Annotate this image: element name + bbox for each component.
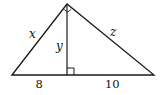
- label-8: 8: [36, 77, 43, 91]
- foot-right-angle-marker: [67, 68, 74, 75]
- triangle-diagram: x y z 8 10: [0, 0, 163, 95]
- label-10: 10: [105, 77, 120, 91]
- label-z: z: [109, 25, 117, 39]
- label-x: x: [29, 27, 36, 41]
- label-y: y: [55, 39, 63, 53]
